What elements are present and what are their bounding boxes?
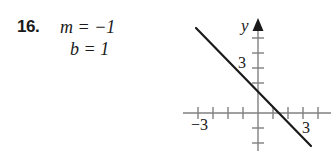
equation-slope: m = −1 (60, 16, 115, 38)
x-tick-label-3: 3 (302, 120, 310, 136)
y-axis-label: y (241, 18, 249, 34)
equation-list: m = −1 b = 1 (60, 16, 115, 60)
y-axis (252, 18, 264, 151)
problem-number: 16. (17, 17, 39, 37)
y-axis-arrow (253, 18, 264, 31)
equation-intercept: b = 1 (60, 38, 115, 60)
x-tick-label-neg3: −3 (191, 117, 208, 133)
worked-example-figure: 16. m = −1 b = 1 (0, 0, 334, 151)
coordinate-graph: y 3 −3 3 (175, 0, 334, 151)
problem-statement: 16. m = −1 b = 1 (0, 0, 175, 151)
y-tick-label-3: 3 (238, 55, 246, 71)
